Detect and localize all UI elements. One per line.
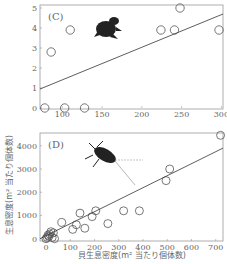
x-tick-label: 250 <box>174 110 189 119</box>
y-tick-label: 2000 <box>17 188 37 197</box>
data-point <box>80 104 88 112</box>
panel-c: (C) 100150200250300012345 <box>32 4 227 119</box>
data-point <box>120 207 128 215</box>
data-point <box>215 26 223 34</box>
y-tick-label: 1000 <box>17 211 37 220</box>
y-tick-label: 3000 <box>17 165 37 174</box>
data-point <box>66 26 74 34</box>
x-axis-label: 貝生息密度(m² 当たり個体数) <box>78 250 186 260</box>
panel-d: (D) 010020030040050060070001000200030004… <box>17 131 225 260</box>
panel-c-regression-line <box>40 14 223 89</box>
data-point <box>104 220 112 228</box>
y-tick-label: 4 <box>32 24 37 33</box>
data-point <box>88 213 96 221</box>
x-tick-label: 300 <box>214 110 227 119</box>
water-bug-icon <box>85 141 143 185</box>
x-tick-label: 100 <box>63 243 78 252</box>
x-tick-label: 150 <box>94 110 109 119</box>
data-point <box>58 218 66 226</box>
x-tick-label: 600 <box>184 243 199 252</box>
y-tick-label: 4000 <box>17 142 37 151</box>
y-tick-label: 1 <box>32 84 37 93</box>
panel-d-regression-line <box>40 148 223 239</box>
x-tick-label: 0 <box>44 243 49 252</box>
data-point <box>81 224 89 232</box>
figure: 生息密度(m² 当たり個体数) (C) 10015020025030001234… <box>0 0 227 264</box>
x-tick-label: 700 <box>208 243 223 252</box>
frog-icon <box>94 17 122 39</box>
y-tick-label: 0 <box>32 235 37 244</box>
y-tick-label: 5 <box>32 4 37 13</box>
data-point <box>135 207 143 215</box>
y-tick-label: 0 <box>32 104 37 113</box>
data-point <box>166 165 174 173</box>
panel-c-label: (C) <box>48 11 64 22</box>
data-point <box>47 48 55 56</box>
x-tick-label: 200 <box>134 110 149 119</box>
panel-d-label: (D) <box>48 139 64 150</box>
y-tick-label: 2 <box>32 64 37 73</box>
data-point <box>157 26 165 34</box>
y-axis-label: 生息密度(m² 当たり個体数) <box>4 135 14 235</box>
data-point <box>76 209 84 217</box>
panel-c-frame <box>40 5 223 109</box>
y-tick-label: 3 <box>32 44 37 53</box>
